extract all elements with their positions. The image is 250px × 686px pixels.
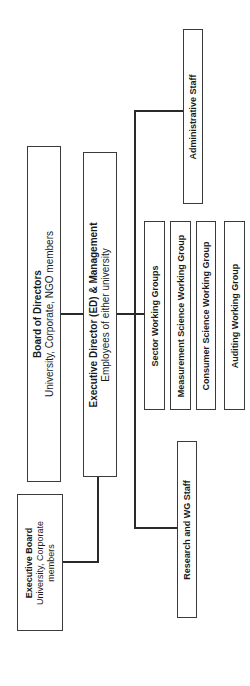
exec-board-subtitle: University, Corporate [35,521,46,605]
research-wg-staff-node: Research and WG Staff [177,441,197,618]
sector-working-groups-node: Sector Working Groups [144,221,165,410]
connector-board-ed [61,313,83,315]
board-of-directors-node: Board of Directors University, Corporate… [27,146,61,482]
executive-director-node: Executive Director (ED) & Management Emp… [83,152,117,477]
board-title: Board of Directors [32,231,44,397]
wg-title: Sector Working Groups [149,265,160,366]
exec-board-title: Executive Board [24,521,35,605]
connector-admin [134,110,183,112]
connector-research [134,527,177,529]
ed-title: Executive Director (ED) & Management [88,222,100,407]
auditing-wg-node: Auditing Working Group [224,221,245,410]
wg-title: Consumer Science Working Group [201,241,212,390]
connector-spine [134,110,136,529]
exec-board-subtitle-2: members [45,521,56,605]
wg-title: Measurement Science Working Group [175,234,186,396]
ed-subtitle: Employees of either university [100,222,112,407]
connector-ed-spine [117,313,145,315]
administrative-staff-node: Administrative Staff [183,29,203,204]
measurement-science-wg-node: Measurement Science Working Group [170,221,191,410]
wg-title: Auditing Working Group [229,263,240,367]
consumer-science-wg-node: Consumer Science Working Group [196,221,216,410]
research-title: Research and WG Staff [182,480,193,580]
executive-board-node: Executive Board University, Corporate me… [17,494,63,631]
connector-ed-exec-horizontal [62,561,99,563]
board-subtitle: University, Corporate, NGO members [44,231,56,397]
admin-title: Administrative Staff [188,74,199,159]
connector-ed-exec-vertical [97,477,99,563]
